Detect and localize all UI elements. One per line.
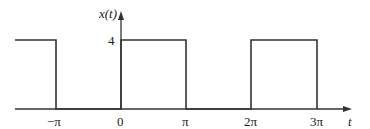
square-wave-plot: x(t) 4 −π 0 π 2π 3π t <box>0 0 370 129</box>
amplitude-label: 4 <box>108 33 115 48</box>
x-tick-zero: 0 <box>117 114 124 129</box>
x-tick-3pi: 3π <box>310 114 324 129</box>
x-tick-2pi: 2π <box>244 114 258 129</box>
axis-arrow-icon <box>118 11 124 20</box>
y-axis-label: x(t) <box>98 6 117 21</box>
axis-arrow-icon <box>343 106 352 112</box>
x-axis-label: t <box>348 114 352 129</box>
x-tick-pi: π <box>182 114 189 129</box>
signal-waveform <box>15 40 317 109</box>
x-tick-neg-pi: −π <box>47 114 61 129</box>
